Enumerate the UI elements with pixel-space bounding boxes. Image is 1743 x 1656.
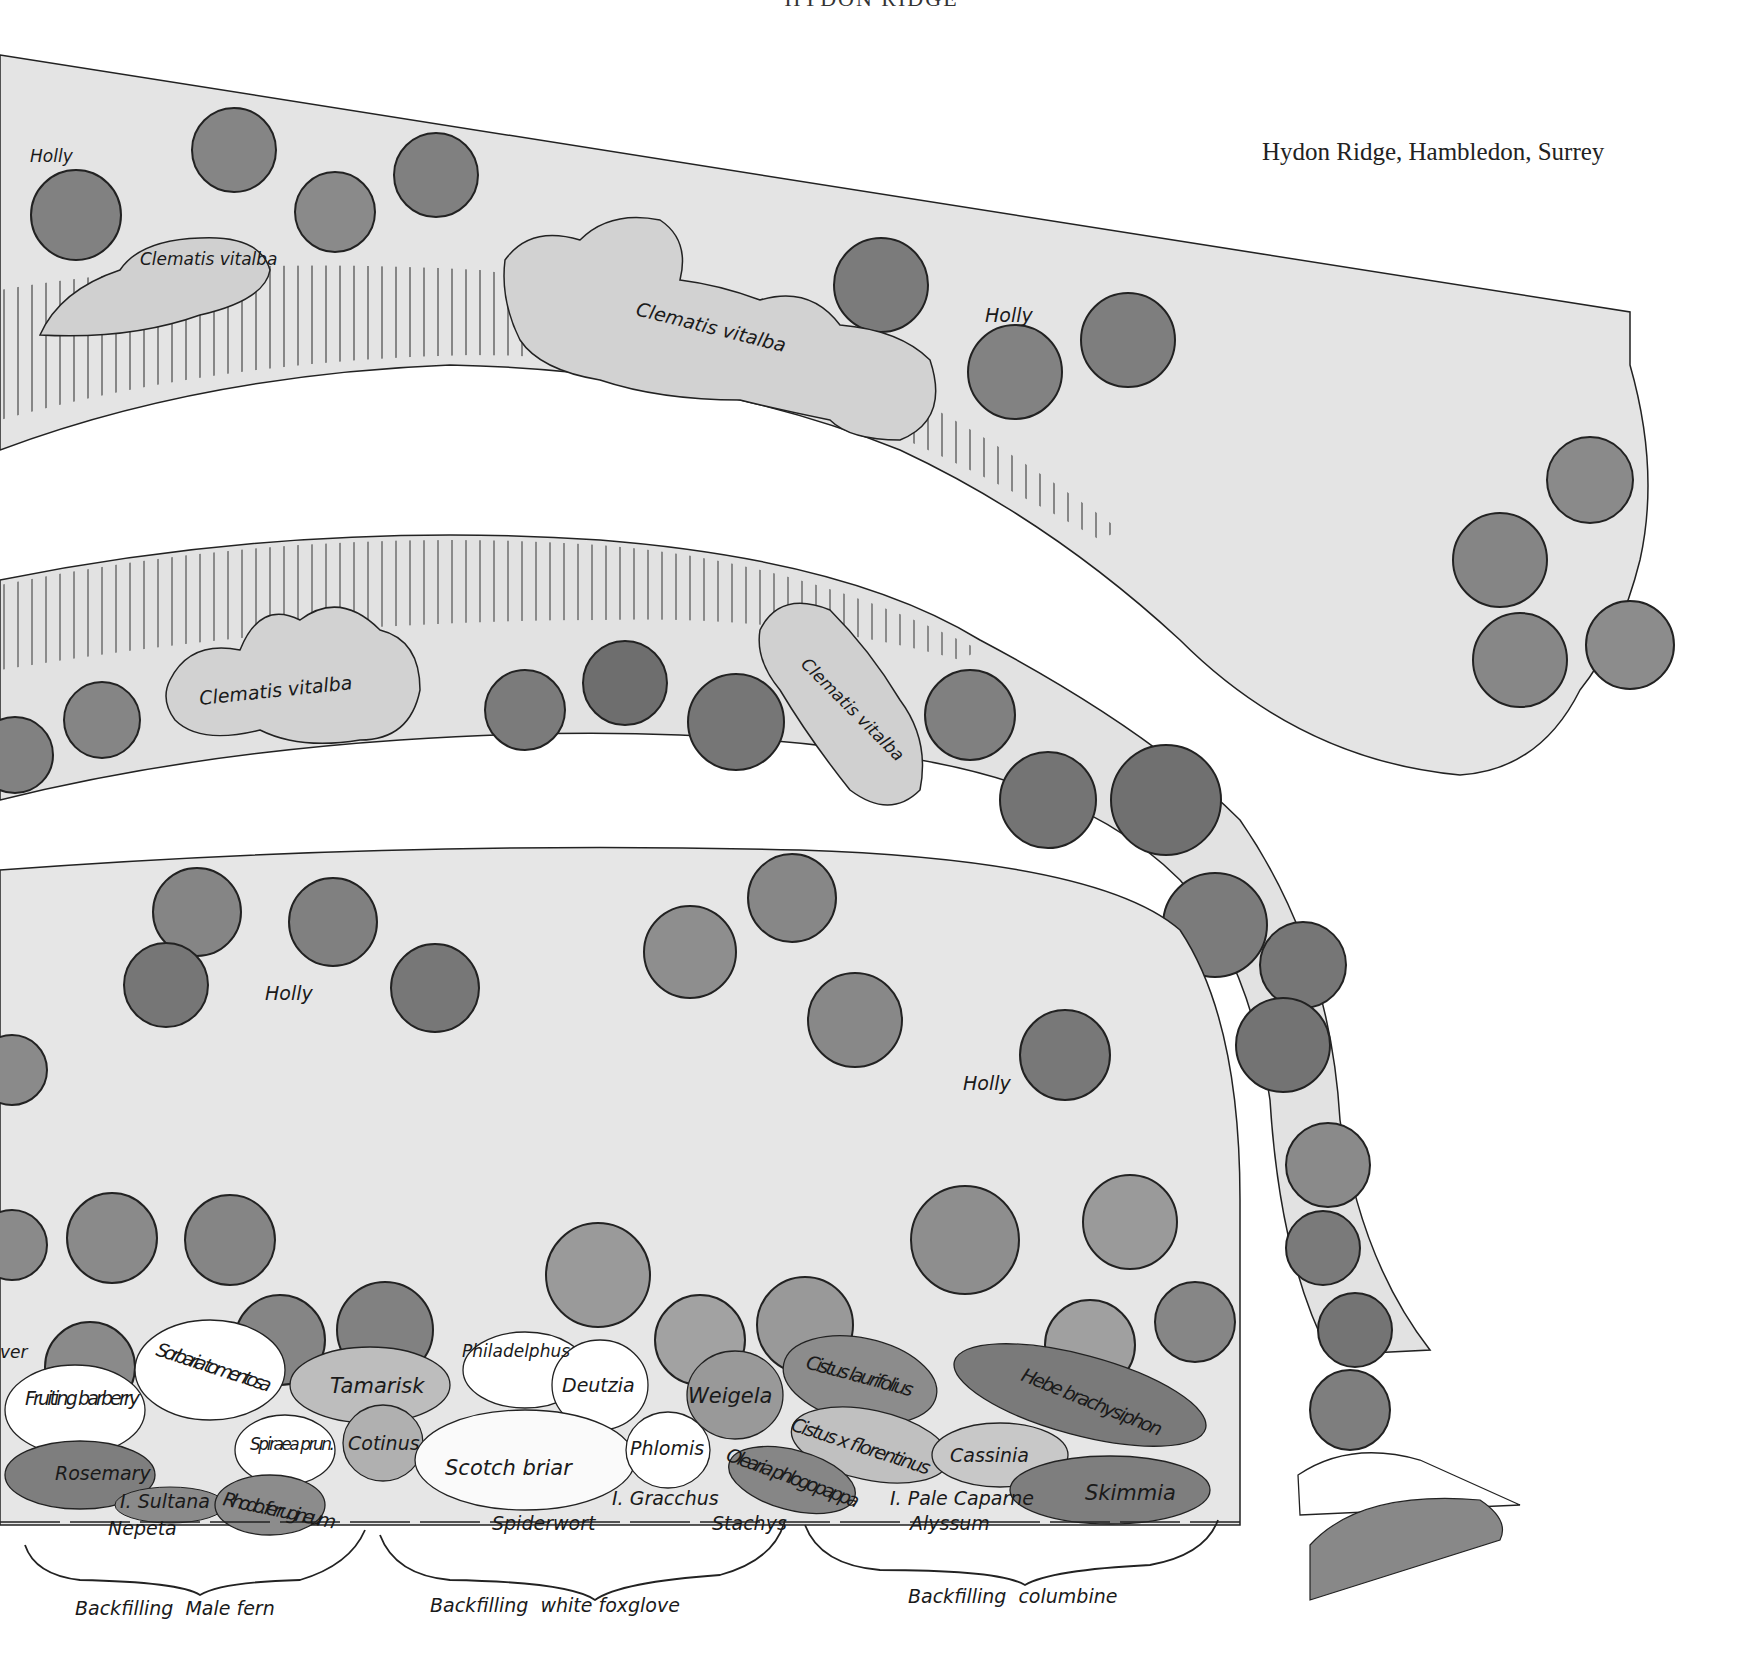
label-scotch-briar: Scotch briar [445, 1456, 573, 1480]
label-iris-pale-caparne: I. Pale Caparne [890, 1487, 1034, 1509]
label-iris-gracchus: I. Gracchus [612, 1487, 719, 1509]
label-backfilling-columbine: Backfilling columbine [908, 1585, 1117, 1607]
label-backfilling-white-foxglove: Backfilling white foxglove [430, 1594, 680, 1616]
label-phlomis: Phlomis [630, 1437, 704, 1459]
label-nepeta: Nepeta [108, 1517, 177, 1539]
label-skimmia: Skimmia [1085, 1481, 1176, 1505]
label-alyssum: Alyssum [908, 1512, 990, 1534]
label-iris-sultana: I. Sultana [120, 1490, 210, 1512]
label-cassinia: Cassinia [950, 1444, 1029, 1466]
label-holly-lower-right: Holly [963, 1072, 1011, 1094]
label-deutzia: Deutzia [562, 1374, 635, 1396]
label-spiraea: Spiraea prun. [250, 1434, 335, 1454]
label-holly-upper-left: Holly [30, 146, 74, 166]
label-fruiting-barberry: Fruiting barberry [25, 1387, 141, 1409]
bracket-male-fern [25, 1530, 365, 1595]
label-stachys: Stachys [712, 1512, 787, 1534]
label-cotinus: Cotinus [348, 1432, 420, 1454]
label-tamarisk: Tamarisk [330, 1374, 425, 1398]
label-holly-upper-right: Holly [985, 304, 1033, 326]
label-holly-lower-left: Holly [265, 982, 313, 1004]
label-philadelphus: Philadelphus [462, 1341, 570, 1361]
label-clematis-upper-left: Clematis vitalba [140, 249, 277, 269]
bracket-columbine [805, 1520, 1218, 1585]
label-weigela: Weigela [688, 1384, 772, 1408]
label-rosemary: Rosemary [55, 1462, 151, 1484]
garden-plan: Holly Clematis vitalba Clematis vitalba … [0, 0, 1743, 1656]
label-edge-fragment: ver [0, 1342, 29, 1362]
label-spiderwort: Spiderwort [492, 1512, 597, 1534]
label-backfilling-male-fern: Backfilling Male fern [75, 1597, 275, 1619]
